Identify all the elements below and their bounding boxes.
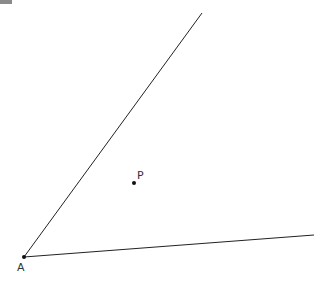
point-a-label: A [17, 261, 25, 274]
point-p[interactable] [132, 181, 136, 185]
geometry-canvas: A P [0, 0, 334, 285]
point-a[interactable] [22, 255, 26, 259]
ray-upper [24, 13, 202, 257]
ray-lower [24, 235, 314, 257]
point-p-label: P [137, 169, 144, 182]
